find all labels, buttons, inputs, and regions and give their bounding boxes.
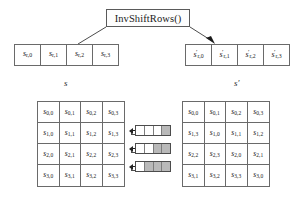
input-matrix-cell-3-2: s3,2: [81, 165, 103, 186]
cell-sub: 2,1: [68, 152, 75, 158]
output-matrix-cell-0-3: s0,3: [248, 102, 270, 123]
output-matrix-cell-3-0: s3,1: [183, 165, 205, 186]
output-row-cell-1: s′r,1: [212, 45, 238, 65]
input-matrix-cell-2-3: s2,3: [103, 144, 125, 165]
output-row-array: s′r,0 s′r,1 s′r,2 s′r,3: [185, 44, 290, 66]
input-row-cell-3: sr,3: [93, 45, 118, 65]
cell-sub: 0,3: [111, 110, 118, 116]
output-state-matrix: s0,0 s0,1 s0,2 s0,3 s1,3 s1,0 s1,1 s1,2 …: [182, 101, 270, 187]
output-matrix-cell-1-1: s1,0: [205, 123, 227, 144]
output-matrix-cell-2-0: s2,2: [183, 144, 205, 165]
output-matrix-cell-2-2: s2,0: [226, 144, 248, 165]
input-row-cell-3-sub: r,3: [104, 53, 110, 59]
operation-box: InvShiftRows(): [106, 9, 190, 27]
output-matrix-cell-0-2: s0,2: [226, 102, 248, 123]
input-row-cell-0: sr,0: [15, 45, 41, 65]
output-matrix-cell-2-1: s2,3: [205, 144, 227, 165]
cell-sub: 3,3: [111, 173, 118, 179]
cell-sub: 3,2: [213, 173, 220, 179]
input-state-matrix: s0,0 s0,1 s0,2 s0,3 s1,0 s1,1 s1,2 s1,3 …: [37, 101, 125, 187]
cell-sub: 0,2: [234, 110, 241, 116]
input-matrix-cell-2-1: s2,1: [60, 144, 82, 165]
cell-sub: 1,2: [256, 131, 263, 137]
output-row-cell-2-sub: r,2: [250, 54, 256, 60]
cell-sub: 2,0: [46, 152, 53, 158]
input-matrix-cell-0-2: s0,2: [81, 102, 103, 123]
output-row-cell-3-sub: r,3: [276, 54, 282, 60]
cell-sub: 3,2: [89, 173, 96, 179]
input-matrix-cell-0-0: s0,0: [38, 102, 60, 123]
cell-sub: 1,1: [68, 131, 75, 137]
cell-sub: 0,2: [89, 110, 96, 116]
output-matrix-cell-0-1: s0,1: [205, 102, 227, 123]
cell-sub: 0,1: [213, 110, 220, 116]
input-matrix-cell-2-2: s2,2: [81, 144, 103, 165]
input-matrix-cell-1-3: s1,3: [103, 123, 125, 144]
cell-sub: 1,0: [46, 131, 53, 137]
cell-sub: 2,3: [111, 152, 118, 158]
operation-label: InvShiftRows(): [115, 13, 182, 24]
output-caption: s′: [234, 78, 239, 88]
cell-sub: 2,2: [191, 152, 198, 158]
cell-sub: 3,1: [68, 173, 75, 179]
input-matrix-cell-1-0: s1,0: [38, 123, 60, 144]
input-matrix-cell-0-3: s0,3: [103, 102, 125, 123]
output-matrix-cell-1-3: s1,2: [248, 123, 270, 144]
input-matrix-cell-1-2: s1,2: [81, 123, 103, 144]
cell-sub: 3,0: [46, 173, 53, 179]
cell-sub: 2,1: [256, 152, 263, 158]
cell-sub: 1,0: [213, 131, 220, 137]
cell-sub: 0,0: [46, 110, 53, 116]
shift-row-1-icon: [129, 124, 171, 137]
input-matrix-cell-1-1: s1,1: [60, 123, 82, 144]
output-row-cell-0: s′r,0: [186, 45, 212, 65]
cell-sub: 3,1: [191, 173, 198, 179]
cell-sub: 2,2: [89, 152, 96, 158]
output-row-cell-2: s′r,2: [238, 45, 264, 65]
cell-sub: 1,2: [89, 131, 96, 137]
output-row-cell-0-sub: r,0: [198, 54, 204, 60]
output-matrix-cell-2-3: s2,1: [248, 144, 270, 165]
cell-sub: 2,3: [213, 152, 220, 158]
cell-sub: 3,0: [256, 173, 263, 179]
output-matrix-cell-1-2: s1,1: [226, 123, 248, 144]
input-caption: s: [64, 78, 68, 88]
cell-sub: 0,1: [68, 110, 75, 116]
input-row-cell-2: sr,2: [67, 45, 93, 65]
input-row-array: sr,0 sr,1 sr,2 sr,3: [14, 44, 119, 66]
output-matrix-cell-3-1: s3,2: [205, 165, 227, 186]
shift-row-3-icon: [129, 160, 171, 173]
output-row-cell-3: s′r,3: [264, 45, 289, 65]
cell-sub: 3,3: [234, 173, 241, 179]
input-matrix-cell-3-0: s3,0: [38, 165, 60, 186]
input-matrix-cell-2-0: s2,0: [38, 144, 60, 165]
input-matrix-cell-3-1: s3,1: [60, 165, 82, 186]
input-row-cell-2-sub: r,2: [78, 53, 84, 59]
cell-sub: 1,3: [111, 131, 118, 137]
input-row-cell-0-sub: r,0: [26, 53, 32, 59]
cell-sub: 1,1: [234, 131, 241, 137]
cell-sub: 0,3: [256, 110, 263, 116]
diagram-canvas: InvShiftRows() sr,0 sr,1 sr,2 sr,3 s′r,0…: [0, 0, 293, 201]
output-row-cell-1-sub: r,1: [224, 54, 230, 60]
input-row-cell-1-sub: r,1: [52, 53, 58, 59]
output-matrix-cell-3-3: s3,0: [248, 165, 270, 186]
output-matrix-cell-0-0: s0,0: [183, 102, 205, 123]
cell-sub: 0,0: [191, 110, 198, 116]
input-row-cell-1: sr,1: [41, 45, 67, 65]
cell-sub: 2,0: [234, 152, 241, 158]
cell-sub: 1,3: [191, 131, 198, 137]
input-matrix-cell-3-3: s3,3: [103, 165, 125, 186]
shift-row-2-icon: [129, 142, 171, 155]
output-matrix-cell-3-2: s3,3: [226, 165, 248, 186]
shift-indicator-group: [129, 124, 171, 178]
output-matrix-cell-1-0: s1,3: [183, 123, 205, 144]
input-matrix-cell-0-1: s0,1: [60, 102, 82, 123]
